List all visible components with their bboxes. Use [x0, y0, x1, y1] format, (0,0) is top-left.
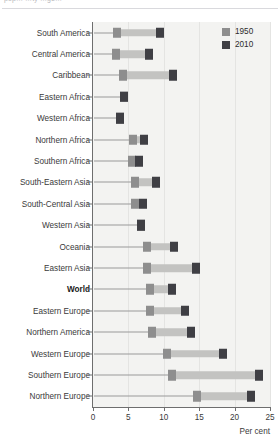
marker-2010 [120, 92, 128, 103]
marker-1950 [193, 391, 201, 402]
y-axis-tick [87, 161, 92, 162]
y-axis-tick [87, 139, 92, 140]
row-leader-line [94, 161, 128, 162]
chart-row: Southern Africa [0, 150, 280, 171]
row-label-caribbean: Caribbean [52, 71, 90, 80]
x-axis-tick-label: 15 [195, 413, 204, 422]
chart-row: Northern Africa [0, 129, 280, 150]
x-axis-title: Per cent [240, 427, 271, 436]
row-leader-line [94, 332, 148, 333]
row-label-northern-africa: Northern Africa [35, 135, 90, 144]
row-leader-line [94, 32, 113, 33]
marker-2010 [169, 70, 177, 81]
y-axis-tick [87, 203, 92, 204]
chart-row: South-Central Asia [0, 193, 280, 214]
chart-row: Eastern Europe [0, 300, 280, 321]
row-leader-line [94, 139, 129, 140]
y-axis-tick [87, 332, 92, 333]
marker-2010 [170, 241, 178, 252]
chart-row: Northern America [0, 322, 280, 343]
row-label-western-europe: Western Europe [31, 349, 90, 358]
row-leader-line [94, 225, 137, 226]
x-axis-tick-label: 20 [230, 413, 239, 422]
row-leader-line [94, 289, 146, 290]
row-leader-line [94, 246, 143, 247]
y-axis-tick [87, 32, 92, 33]
marker-2010 [145, 49, 153, 60]
row-label-south-america: South America [37, 28, 90, 37]
x-axis-tick-label: 0 [91, 413, 96, 422]
row-label-southern-europe: Southern Europe [28, 371, 90, 380]
row-label-oceania: Oceania [60, 242, 91, 251]
chart-row: Eastern Africa [0, 86, 280, 107]
row-span-bar [163, 350, 228, 358]
row-leader-line [94, 96, 120, 97]
legend-swatch-1950-icon [222, 28, 230, 36]
chart-row: Western Africa [0, 108, 280, 129]
chart-row: World [0, 279, 280, 300]
marker-2010 [116, 113, 124, 124]
marker-1950 [163, 348, 171, 359]
y-axis-tick [87, 396, 92, 397]
row-label-northern-america: Northern America [26, 328, 90, 337]
chart-row: Western Asia [0, 215, 280, 236]
row-label-eastern-asia: Eastern Asia [44, 264, 90, 273]
row-leader-line [94, 310, 146, 311]
marker-2010 [168, 284, 176, 295]
y-axis-tick [87, 75, 92, 76]
chart-row: Eastern Asia [0, 257, 280, 278]
row-leader-line [94, 75, 119, 76]
chart-row: Caribbean [0, 65, 280, 86]
chart-figure: pop… …ty …ge… South AmericaCentral Ameri… [0, 0, 280, 442]
marker-2010 [247, 391, 255, 402]
row-span-bar [168, 371, 262, 379]
marker-2010 [187, 327, 195, 338]
row-leader-line [94, 203, 131, 204]
y-axis-tick [87, 118, 92, 119]
row-label-eastern-africa: Eastern Africa [39, 92, 90, 101]
row-label-south-central-asia: South-Central Asia [22, 199, 90, 208]
row-label-south-eastern-asia: South-Eastern Asia [20, 178, 90, 187]
x-axis-tick [128, 407, 129, 411]
cropped-caption-text: pop… …ty …ge… [4, 0, 62, 2]
x-axis-tick [199, 407, 200, 411]
row-leader-line [94, 118, 116, 119]
chart-legend: 1950 2010 [222, 27, 253, 53]
marker-1950 [168, 370, 176, 381]
chart-row: Western Europe [0, 343, 280, 364]
legend-label-2010: 2010 [235, 40, 253, 49]
y-axis-tick [87, 225, 92, 226]
marker-1950 [112, 49, 120, 60]
chart-row: Northern Europe [0, 386, 280, 407]
row-leader-line [94, 54, 112, 55]
row-label-northern-europe: Northern Europe [29, 392, 90, 401]
caption-divider [2, 8, 278, 9]
x-axis-tick [93, 407, 94, 411]
marker-2010 [181, 306, 189, 317]
y-axis-tick [87, 353, 92, 354]
x-axis-tick-label: 10 [159, 413, 168, 422]
chart-row: South-Eastern Asia [0, 172, 280, 193]
marker-1950 [146, 284, 154, 295]
row-label-central-america: Central America [32, 50, 90, 59]
marker-1950 [129, 134, 137, 145]
marker-2010 [139, 199, 147, 210]
row-label-western-asia: Western Asia [42, 221, 90, 230]
marker-2010 [140, 134, 148, 145]
row-label-eastern-europe: Eastern Europe [33, 306, 90, 315]
row-leader-line [94, 375, 168, 376]
marker-2010 [219, 348, 227, 359]
row-span-bar [193, 393, 255, 401]
y-axis-tick [87, 182, 92, 183]
x-axis-tick [270, 407, 271, 411]
marker-1950 [143, 241, 151, 252]
marker-1950 [143, 263, 151, 274]
x-axis-tick [164, 407, 165, 411]
marker-2010 [192, 263, 200, 274]
y-axis-tick [87, 375, 92, 376]
cropped-caption-strip: pop… …ty …ge… [0, 0, 280, 9]
x-axis-tick [235, 407, 236, 411]
row-leader-line [94, 396, 193, 397]
y-axis-tick [87, 289, 92, 290]
marker-1950 [113, 27, 121, 38]
